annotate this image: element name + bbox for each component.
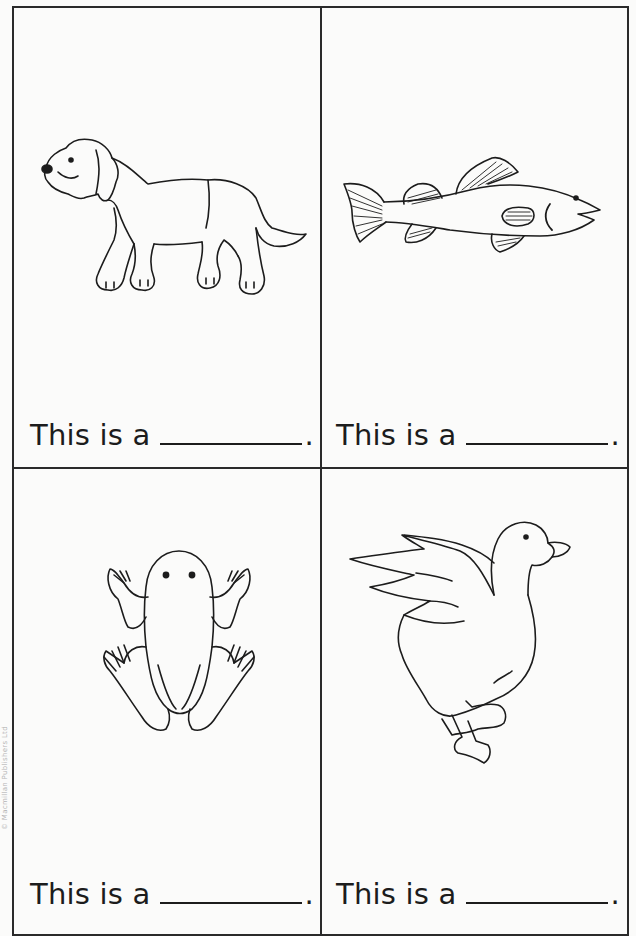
caption-text: This is a xyxy=(336,877,456,911)
caption-period: . xyxy=(304,418,313,452)
caption-text: This is a xyxy=(30,418,150,452)
answer-blank[interactable] xyxy=(466,902,608,904)
caption: This is a . xyxy=(30,418,314,452)
copyright-notice: © Macmillan Publishers Ltd xyxy=(1,726,9,830)
cell-fish: This is a . xyxy=(322,8,628,467)
answer-blank[interactable] xyxy=(466,443,608,445)
caption-period: . xyxy=(610,418,619,452)
cell-duck: This is a . xyxy=(322,469,628,921)
cell-frog: This is a . xyxy=(14,469,320,921)
caption: This is a . xyxy=(336,877,620,911)
duck-illustration xyxy=(344,515,574,765)
cell-dog: This is a . xyxy=(14,8,320,467)
answer-blank[interactable] xyxy=(160,443,302,445)
answer-blank[interactable] xyxy=(160,902,302,904)
caption-period: . xyxy=(610,877,619,911)
caption-text: This is a xyxy=(30,877,150,911)
frog-illustration xyxy=(84,547,274,763)
dog-illustration xyxy=(38,136,328,306)
caption-text: This is a xyxy=(336,418,456,452)
caption-period: . xyxy=(304,877,313,911)
fish-illustration xyxy=(340,148,606,260)
caption: This is a . xyxy=(336,418,620,452)
caption: This is a . xyxy=(30,877,314,911)
